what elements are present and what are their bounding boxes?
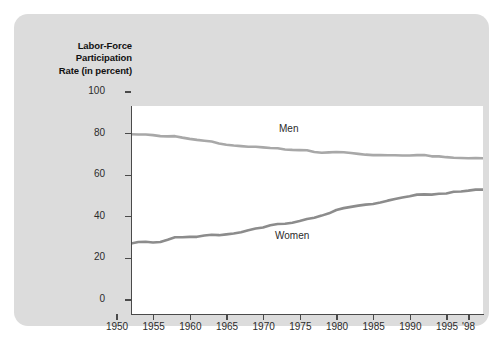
x-tick-label-1970: 1970 (244, 321, 284, 332)
x-tick-label-1965: 1965 (207, 321, 247, 332)
x-tick-1975 (300, 314, 301, 320)
x-tick-label-1975: 1975 (280, 321, 320, 332)
x-tick-1965 (226, 314, 227, 320)
x-tick-label-1960: 1960 (170, 321, 210, 332)
x-tick-1985 (373, 314, 374, 320)
x-tick-98 (468, 314, 469, 320)
x-axis-line (131, 314, 484, 315)
y-tick-20 (125, 258, 131, 259)
x-tick-1950 (116, 314, 117, 320)
y-tick-80 (125, 133, 131, 134)
x-tick-label-1990: 1990 (390, 321, 430, 332)
x-tick-label-1995: 1995 (427, 321, 467, 332)
x-tick-1960 (190, 314, 191, 320)
x-tick-1995 (446, 314, 447, 320)
chart-card: Labor-Force Participation Rate (in perce… (14, 14, 489, 326)
x-tick-label-1980: 1980 (317, 321, 357, 332)
series-label-women: Women (275, 230, 309, 241)
y-tick-label-100: 100 (77, 85, 105, 96)
y-tick-label-0: 0 (77, 293, 105, 304)
y-tick-60 (125, 175, 131, 176)
y-tick-0 (125, 299, 131, 300)
y-tick-100 (125, 91, 131, 92)
x-tick-label-1985: 1985 (354, 321, 394, 332)
plot-area (131, 106, 483, 314)
line-series-group (131, 106, 483, 314)
y-axis-line (131, 106, 132, 315)
x-tick-label-1950: 1950 (97, 321, 137, 332)
y-tick-label-40: 40 (77, 210, 105, 221)
y-tick-40 (125, 216, 131, 217)
axis-title-line-2: Participation (24, 52, 132, 64)
x-tick-label-98: '98 (462, 321, 492, 332)
axis-title-line-1: Labor-Force (24, 40, 132, 52)
chart-axis-title: Labor-Force Participation Rate (in perce… (24, 40, 132, 77)
y-tick-label-80: 80 (77, 127, 105, 138)
x-tick-1990 (410, 314, 411, 320)
x-tick-1955 (153, 314, 154, 320)
y-tick-label-20: 20 (77, 251, 105, 262)
x-tick-1970 (263, 314, 264, 320)
x-tick-1980 (336, 314, 337, 320)
y-tick-label-60: 60 (77, 168, 105, 179)
series-line-men (131, 134, 483, 158)
axis-title-line-3: Rate (in percent) (24, 65, 132, 77)
series-label-men: Men (279, 123, 298, 134)
x-tick-label-1955: 1955 (134, 321, 174, 332)
